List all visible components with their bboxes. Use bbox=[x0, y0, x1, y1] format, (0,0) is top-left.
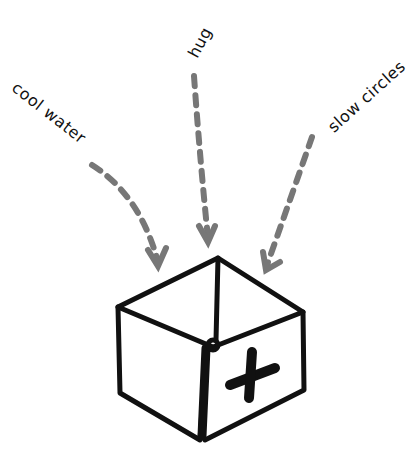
arrow-slow-circles bbox=[263, 137, 312, 270]
arrow-cool-water bbox=[92, 165, 166, 266]
diagram-drawing bbox=[0, 0, 418, 453]
arrow-hug bbox=[194, 76, 215, 242]
diagram-canvas: cool water hug slow circles bbox=[0, 0, 418, 453]
plus-icon bbox=[230, 352, 275, 398]
box-icon bbox=[118, 258, 304, 440]
